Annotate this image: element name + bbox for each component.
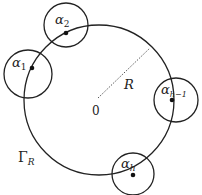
label-origin: 0 <box>92 104 100 118</box>
point-alpha-h <box>131 173 136 178</box>
label-alpha-h-1: αh−1 <box>161 82 187 99</box>
contour-diagram: α1 α2 αh−1 αh 0 R ΓR <box>0 0 202 195</box>
label-alpha-1: α1 <box>12 55 27 72</box>
label-gamma-r: ΓR <box>18 149 35 167</box>
label-alpha-h: αh <box>121 156 136 173</box>
label-alpha-2: α2 <box>55 12 70 29</box>
point-alpha-1 <box>30 66 35 71</box>
point-alpha-2 <box>64 31 69 36</box>
main-circle-gamma-r <box>24 25 174 175</box>
label-radius: R <box>123 77 134 92</box>
